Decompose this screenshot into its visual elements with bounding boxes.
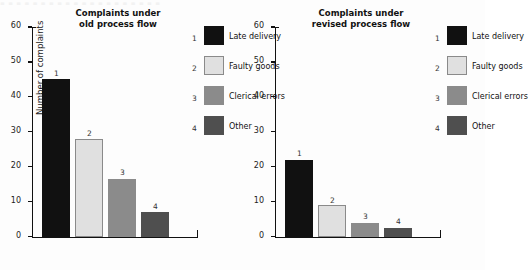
y-axis-tick-label: 20 bbox=[11, 161, 21, 170]
chart-title-line-1: Complaints under bbox=[38, 8, 198, 19]
legend-revised-process: 1Late delivery2Faulty goods3Clerical err… bbox=[441, 26, 487, 146]
bar-1: 1 bbox=[285, 160, 313, 237]
legend-index: 3 bbox=[435, 94, 440, 103]
legend-index: 1 bbox=[435, 34, 440, 43]
bar-value-label: 3 bbox=[108, 168, 136, 177]
y-axis-tick-label: 50 bbox=[11, 56, 21, 65]
legend-item-clerical-errors[interactable]: 3Clerical errors bbox=[198, 86, 244, 116]
legend-item-faulty-goods[interactable]: 2Faulty goods bbox=[441, 56, 487, 86]
plot-area-revised-process: 0102030405060 1234 bbox=[275, 27, 443, 245]
legend-label: Faulty goods bbox=[472, 62, 523, 71]
y-axis-tick-label: 30 bbox=[254, 126, 264, 135]
y-axis-tick: 10 bbox=[271, 201, 275, 202]
x-axis-line bbox=[32, 237, 198, 238]
legend-item-other[interactable]: 4Other bbox=[198, 116, 244, 146]
y-axis-tick: 40 bbox=[28, 96, 32, 97]
legend-swatch-icon bbox=[447, 56, 467, 75]
legend-swatch-icon bbox=[447, 86, 467, 105]
y-axis-tick: 60 bbox=[28, 26, 32, 27]
y-axis-tick: 0 bbox=[271, 236, 275, 237]
legend-old-process: 1Late delivery2Faulty goods3Clerical err… bbox=[198, 26, 244, 146]
legend-item-late-delivery[interactable]: 1Late delivery bbox=[441, 26, 487, 56]
y-axis-tick: 40 bbox=[271, 96, 275, 97]
y-axis-tick: 50 bbox=[271, 61, 275, 62]
bar-3: 3 bbox=[108, 179, 136, 237]
y-axis-tick-label: 50 bbox=[254, 56, 264, 65]
bar-4: 4 bbox=[384, 228, 412, 237]
legend-index: 2 bbox=[192, 64, 197, 73]
chart-title-old-process: Complaints under old process flow bbox=[38, 8, 198, 29]
y-axis-tick: 30 bbox=[271, 131, 275, 132]
y-axis-tick-label: 10 bbox=[11, 196, 21, 205]
bar-2: 2 bbox=[318, 205, 346, 236]
y-axis-tick-label: 20 bbox=[254, 161, 264, 170]
legend-swatch-icon bbox=[204, 56, 224, 75]
legend-item-other[interactable]: 4Other bbox=[441, 116, 487, 146]
legend-label: Other bbox=[472, 122, 495, 131]
bar-value-label: 2 bbox=[76, 129, 102, 138]
x-axis-line bbox=[275, 237, 441, 238]
bar-series-revised-process: 1234 bbox=[276, 27, 440, 237]
legend-item-late-delivery[interactable]: 1Late delivery bbox=[198, 26, 244, 56]
bar-value-label: 4 bbox=[384, 217, 412, 226]
y-axis-tick: 0 bbox=[28, 236, 32, 237]
bar-series-old-process: 1234 bbox=[33, 27, 197, 237]
y-axis-tick: 30 bbox=[28, 131, 32, 132]
bar-1: 1 bbox=[42, 79, 70, 236]
bar-4: 4 bbox=[141, 212, 169, 236]
y-axis-tick-label: 30 bbox=[11, 126, 21, 135]
legend-swatch-icon bbox=[204, 116, 224, 135]
y-axis-tick-label: 0 bbox=[259, 231, 264, 240]
legend-index: 1 bbox=[192, 34, 197, 43]
legend-index: 4 bbox=[192, 124, 197, 133]
y-axis-tick-label: 40 bbox=[11, 91, 21, 100]
chart-title-line-1: Complaints under bbox=[281, 8, 441, 19]
y-axis-tick-label: 60 bbox=[11, 21, 21, 30]
legend-item-faulty-goods[interactable]: 2Faulty goods bbox=[198, 56, 244, 86]
legend-label: Clerical errors bbox=[472, 92, 528, 101]
y-axis-tick: 60 bbox=[271, 26, 275, 27]
y-axis-tick: 20 bbox=[271, 166, 275, 167]
chart-panel-revised-process: Complaints under revised process flow 01… bbox=[243, 0, 485, 270]
legend-swatch-icon bbox=[204, 86, 224, 105]
chart-title-revised-process: Complaints under revised process flow bbox=[281, 8, 441, 29]
bar-value-label: 2 bbox=[319, 196, 345, 205]
y-axis-tick-label: 60 bbox=[254, 21, 264, 30]
legend-item-clerical-errors[interactable]: 3Clerical errors bbox=[441, 86, 487, 116]
legend-index: 3 bbox=[192, 94, 197, 103]
y-axis-tick: 20 bbox=[28, 166, 32, 167]
legend-swatch-icon bbox=[447, 26, 467, 45]
y-axis-tick-label: 10 bbox=[254, 196, 264, 205]
y-axis-tick: 10 bbox=[28, 201, 32, 202]
legend-swatch-icon bbox=[447, 116, 467, 135]
bar-2: 2 bbox=[75, 139, 103, 237]
y-axis-tick-label: 40 bbox=[254, 91, 264, 100]
y-axis-tick: 50 bbox=[28, 61, 32, 62]
plot-area-old-process: Number of complaints 0102030405060 1234 bbox=[32, 27, 200, 245]
bar-3: 3 bbox=[351, 223, 379, 237]
legend-label: Late delivery bbox=[472, 32, 524, 41]
bar-value-label: 3 bbox=[351, 212, 379, 221]
bar-value-label: 1 bbox=[285, 149, 313, 158]
y-axis-tick-label: 0 bbox=[16, 231, 21, 240]
bar-value-label: 4 bbox=[141, 202, 169, 211]
legend-index: 2 bbox=[435, 64, 440, 73]
chart-panel-old-process: Complaints under old process flow Number… bbox=[0, 0, 242, 270]
legend-swatch-icon bbox=[204, 26, 224, 45]
legend-index: 4 bbox=[435, 124, 440, 133]
bar-value-label: 1 bbox=[42, 69, 70, 78]
